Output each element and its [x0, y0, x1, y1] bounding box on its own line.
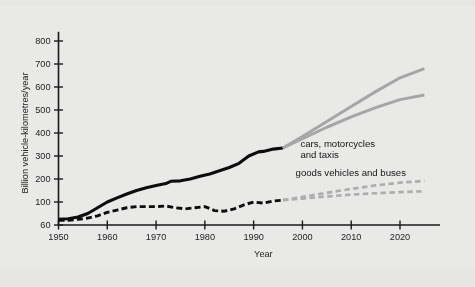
x-tick-label: 2000 — [292, 232, 312, 242]
series-line — [59, 148, 283, 219]
series-line — [283, 69, 424, 148]
y-tick-label: 100 — [35, 197, 50, 207]
goods-annotation-line1: goods vehicles and buses — [296, 167, 407, 178]
cars-annotation-line1: cars, motorcycles — [300, 138, 375, 149]
y-tick-label: 700 — [35, 59, 50, 69]
x-tick-label: 2010 — [341, 232, 361, 242]
x-axis-title: Year — [254, 249, 273, 259]
series-annotations-group: cars, motorcycles and taxis goods vehicl… — [296, 138, 407, 178]
x-tick-label: 1960 — [97, 232, 117, 242]
x-axis-ticks: 19501960197019801990200020102020 — [48, 221, 410, 243]
y-axis-title: Billion vehicle-kilometres/year — [20, 72, 30, 193]
y-tick-label: 300 — [35, 151, 50, 161]
line-chart: 60100200300400500600700800 1950196019701… — [0, 0, 475, 287]
x-tick-label: 1970 — [146, 232, 166, 242]
y-tick-label: 400 — [35, 128, 50, 138]
y-tick-label: 200 — [35, 174, 50, 184]
y-tick-label: 600 — [35, 82, 50, 92]
x-tick-label: 1950 — [48, 232, 68, 242]
x-tick-label: 2020 — [390, 232, 410, 242]
x-tick-label: 1990 — [243, 232, 263, 242]
figure-container: 60100200300400500600700800 1950196019701… — [0, 0, 475, 287]
y-tick-label: 500 — [35, 105, 50, 115]
y-tick-label: 800 — [35, 36, 50, 46]
y-tick-label: 60 — [40, 220, 50, 230]
cars-annotation-line2: and taxis — [300, 149, 339, 160]
x-tick-label: 1980 — [195, 232, 215, 242]
